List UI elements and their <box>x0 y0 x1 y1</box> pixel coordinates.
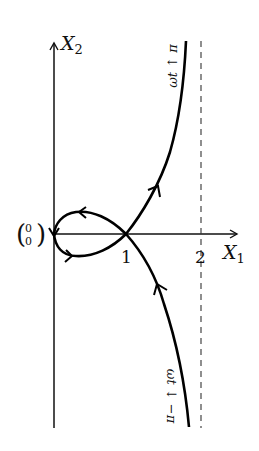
svg-text:0: 0 <box>25 222 32 235</box>
upper-branch-annotation: ωt ↑ π <box>165 44 180 88</box>
x-axis-label: X1 <box>221 241 245 266</box>
x-tick-1: 1 <box>121 247 132 267</box>
svg-text:): ) <box>36 219 46 249</box>
loop-lower-curve <box>54 234 126 256</box>
phase-portrait-diagram: X2 X1 1 2 ( ) 0 0 ωt ↑ π ωt ↓ −π <box>0 0 259 451</box>
x-tick-2: 2 <box>195 247 206 267</box>
loop-upper-curve <box>54 212 126 234</box>
y-axis-label: X2 <box>59 32 83 57</box>
svg-text:0: 0 <box>25 235 32 248</box>
origin-label: ( ) 0 0 <box>16 219 46 249</box>
lower-branch-annotation: ωt ↓ −π <box>164 369 179 424</box>
